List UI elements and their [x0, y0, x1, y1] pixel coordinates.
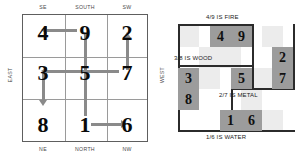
loshu-cell-r2c0: 8	[22, 114, 64, 136]
compass-label-west: WEST	[159, 61, 165, 89]
loshu-cell-r2c1: 1	[64, 114, 106, 136]
loshu-cell-r1c2: 7	[106, 62, 148, 84]
compass-label-east: EAST	[7, 61, 13, 89]
element-tile-wood-8: 8	[178, 89, 199, 110]
element-bg-tile-10	[262, 110, 283, 131]
compass-label-nw: NW	[106, 146, 148, 152]
compass-label-ne: NE	[22, 146, 64, 152]
loshu-cell-r0c1: 9	[64, 22, 106, 44]
element-label-fire: 4/9 IS FIRE	[206, 14, 239, 20]
compass-label-sw: SW	[106, 4, 148, 10]
element-tile-fire-4: 4	[210, 26, 231, 47]
element-label-water: 1/6 IS WATER	[206, 134, 246, 140]
element-label-wood: 3/8 IS WOOD	[174, 55, 212, 61]
arrow-three-to-eight-head	[39, 100, 47, 106]
compass-label-south: SOUTH	[64, 4, 106, 10]
compass-label-north: NORTH	[64, 146, 106, 152]
element-tile-metal-2: 2	[272, 47, 293, 68]
loshu-cell-r1c1: 5	[64, 62, 106, 84]
element-tile-earth-5: 5	[231, 68, 252, 89]
element-tile-wood-3: 3	[178, 68, 199, 89]
compass-label-se: SE	[22, 4, 64, 10]
elements-panel: 4/9 IS FIRE 4 9 3/8 IS WOOD 3 8 5 2 7 2/…	[172, 0, 300, 161]
rule-fire-right	[252, 24, 254, 89]
element-tile-fire-9: 9	[231, 26, 252, 47]
element-bg-tile-1	[178, 26, 199, 47]
rule-wood-top	[178, 65, 254, 67]
element-tile-water-1: 1	[220, 110, 241, 131]
element-label-metal: 2/7 IS METAL	[219, 92, 258, 98]
element-bg-tile-8	[262, 26, 283, 47]
loshu-cell-r0c0: 4	[22, 22, 64, 44]
loshu-grid-panel: SE SOUTH SW EAST WEST NE NORTH NW	[0, 0, 172, 161]
loshu-cell-r1c0: 3	[22, 62, 64, 84]
element-tile-metal-7: 7	[272, 68, 293, 89]
diagram-root: SE SOUTH SW EAST WEST NE NORTH NW	[0, 0, 300, 161]
element-tile-water-6: 6	[241, 110, 262, 131]
loshu-cell-r0c2: 2	[106, 22, 148, 44]
element-bg-tile-4	[199, 68, 220, 89]
rule-metal-right	[293, 24, 295, 90]
loshu-cell-r2c2: 6	[106, 114, 148, 136]
